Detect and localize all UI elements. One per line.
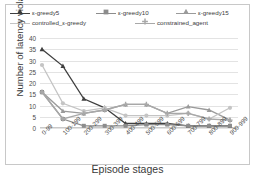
y-tick-label: 0 bbox=[32, 125, 36, 132]
series-line bbox=[42, 65, 230, 119]
legend-item-constrained-agent[interactable]: constrained_agent bbox=[135, 18, 208, 28]
data-point-marker bbox=[61, 101, 65, 105]
legend-item-e-greedy15[interactable]: ε-greedy15 bbox=[176, 8, 229, 18]
y-tick-label: 20 bbox=[29, 80, 36, 87]
chart-container: ε-greedy5 ε-greedy10 ε-greed bbox=[0, 0, 255, 184]
data-point-marker bbox=[40, 63, 44, 67]
y-tick-label: 30 bbox=[29, 57, 36, 64]
data-point-marker bbox=[40, 47, 45, 52]
legend-label: constrained_agent bbox=[157, 18, 208, 28]
y-tick-label: 25 bbox=[29, 68, 36, 75]
data-point-marker bbox=[186, 111, 191, 116]
legend-label: ε-greedy15 bbox=[198, 8, 229, 18]
y-tick-label: 40 bbox=[29, 35, 36, 42]
legend-row-2: controlled_ε-greedy constrained_agent bbox=[10, 18, 248, 28]
y-tick-label: 15 bbox=[29, 91, 36, 98]
x-axis-title: Episode stages bbox=[0, 163, 255, 175]
legend-label: ε-greedy5 bbox=[32, 8, 59, 18]
legend-item-controlled-e-greedy[interactable]: controlled_ε-greedy bbox=[10, 18, 135, 28]
legend-row-1: ε-greedy5 ε-greedy10 ε-greed bbox=[10, 8, 248, 18]
data-point-marker bbox=[144, 114, 148, 118]
x-axis-ticks: 0-99100-199200-299300-399400-499500-5996… bbox=[40, 129, 238, 161]
legend-label: ε-greedy10 bbox=[118, 8, 149, 18]
y-tick-label: 10 bbox=[29, 102, 36, 109]
legend-marker-triangle-icon bbox=[176, 9, 196, 17]
data-point-marker bbox=[228, 106, 232, 110]
legend-label: controlled_ε-greedy bbox=[32, 18, 86, 28]
chart-legend: ε-greedy5 ε-greedy10 ε-greed bbox=[10, 8, 248, 28]
legend-item-e-greedy10[interactable]: ε-greedy10 bbox=[96, 8, 176, 18]
y-axis-ticks: 0510152025303540 bbox=[18, 38, 38, 128]
y-tick-label: 5 bbox=[32, 113, 36, 120]
y-tick-label: 35 bbox=[29, 46, 36, 53]
legend-marker-square-icon bbox=[96, 9, 116, 17]
data-point-marker bbox=[124, 114, 128, 118]
legend-marker-plus-icon bbox=[135, 19, 155, 27]
